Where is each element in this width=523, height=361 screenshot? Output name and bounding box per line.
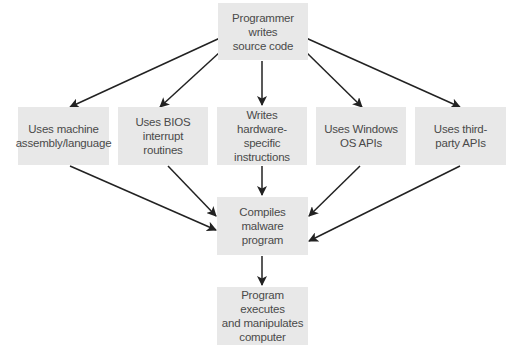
- arrow-source-to-thirdparty: [306, 38, 460, 107]
- node-text-line: specific instructions: [220, 136, 304, 164]
- node-text-line: OS APIs: [324, 136, 398, 150]
- node-text-line: Uses BIOS interrupt: [121, 115, 205, 143]
- node-text-line: Writes hardware-: [220, 108, 304, 136]
- node-text-line: computer: [220, 330, 305, 344]
- node-compiles-malware-program: Compiles malware program: [217, 197, 308, 255]
- node-text-line: Program executes: [220, 288, 305, 316]
- arrow-source-to-bios: [160, 52, 220, 107]
- node-text-line: and manipulates: [220, 316, 305, 330]
- node-writes-hardware-specific-instructions: Writes hardware- specific instructions: [217, 107, 307, 165]
- node-text-line: assembly/language: [16, 136, 112, 150]
- node-text-line: Compiles malware: [220, 205, 305, 233]
- node-text-line: Programmer writes: [221, 11, 305, 39]
- node-text-line: routines: [121, 143, 205, 157]
- node-uses-third-party-apis: Uses third- party APIs: [415, 107, 506, 165]
- arrow-bios-to-compile: [168, 166, 216, 216]
- arrow-thirdparty-to-compile: [309, 166, 460, 241]
- node-uses-bios-interrupt-routines: Uses BIOS interrupt routines: [118, 107, 208, 165]
- node-text-line: party APIs: [434, 136, 487, 150]
- node-programmer-writes-source-code: Programmer writes source code: [218, 3, 308, 60]
- arrow-source-to-windows: [306, 52, 362, 107]
- node-text-line: source code: [221, 39, 305, 53]
- node-text-line: Uses Windows: [324, 122, 398, 136]
- node-text-line: Uses third-: [434, 122, 487, 136]
- arrow-assembly-to-compile: [70, 166, 216, 230]
- node-program-executes-and-manipulates-computer: Program executes and manipulates compute…: [217, 287, 308, 345]
- node-text-line: Uses machine: [16, 122, 112, 136]
- node-uses-windows-os-apis: Uses Windows OS APIs: [316, 107, 406, 165]
- node-text-line: program: [220, 233, 305, 247]
- arrow-windows-to-compile: [309, 166, 360, 216]
- node-uses-machine-assembly: Uses machine assembly/language: [18, 107, 109, 165]
